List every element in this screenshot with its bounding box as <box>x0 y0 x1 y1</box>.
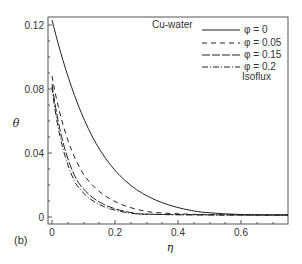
y-tick-0.04: 0.04 <box>25 148 45 159</box>
series-phi-0.2 <box>52 87 288 215</box>
x-axis-label: η <box>167 241 174 254</box>
y-tick-0: 0 <box>38 212 44 223</box>
x-tick-0.6: 0.6 <box>234 227 248 238</box>
series-phi-0.15 <box>52 84 288 215</box>
y-axis <box>48 25 52 217</box>
panel-label: (b) <box>14 234 27 246</box>
legend-label-phi-0.2: φ = 0.2 <box>244 61 276 72</box>
condition-label: Isoflux <box>242 71 271 82</box>
legend-label-phi-0: φ = 0 <box>244 24 268 35</box>
series-phi-0.05 <box>52 76 288 215</box>
legend: φ = 0 φ = 0.05 φ = 0.15 φ = 0.2 <box>202 24 282 72</box>
legend-label-phi-0.15: φ = 0.15 <box>244 49 282 60</box>
x-tick-0: 0 <box>49 227 55 238</box>
y-tick-0.12: 0.12 <box>25 20 45 31</box>
y-tick-0.08: 0.08 <box>25 84 45 95</box>
chart: 0 0.04 0.08 0.12 0 0.2 0.4 0.6 η θ (b) C… <box>0 0 302 264</box>
legend-label-phi-0.05: φ = 0.05 <box>244 37 282 48</box>
x-tick-0.4: 0.4 <box>171 227 185 238</box>
x-axis <box>52 220 273 224</box>
y-axis-label: θ <box>13 117 20 130</box>
x-tick-0.2: 0.2 <box>108 227 122 238</box>
fluid-label: Cu-water <box>152 19 193 30</box>
